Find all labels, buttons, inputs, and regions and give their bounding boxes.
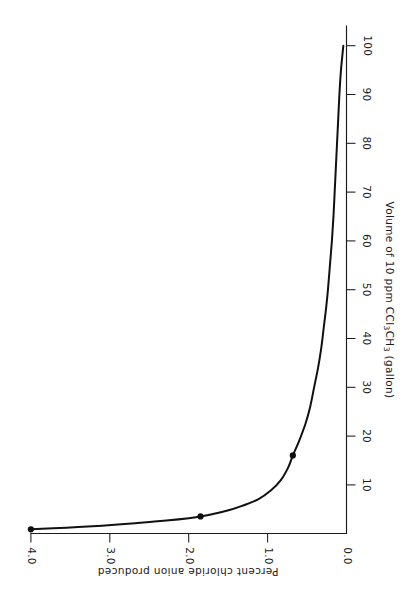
volume-tick-20: 20 <box>347 429 374 443</box>
percent-tick-label: 0.0 <box>342 547 354 564</box>
percent-tick-1: 1.0 <box>263 534 275 565</box>
percent-tick-label: 1.0 <box>263 547 275 564</box>
volume-tick-10: 10 <box>347 478 374 492</box>
volume-tick-80: 80 <box>347 136 374 150</box>
volume-tick-60: 60 <box>347 234 374 248</box>
volume-title-part-c: (gallon) <box>384 352 396 399</box>
svg-text:Volume of 10 ppm CCl3CH3 (gal: Volume of 10 ppm CCl3CH3 (gallon) <box>382 201 396 398</box>
volume-tick-label: 10 <box>361 478 373 492</box>
volume-tick-30: 30 <box>347 380 374 394</box>
percent-axis-ticks: 0.0 1.0 2.0 3.0 4.0 <box>26 534 354 565</box>
data-curve <box>31 46 343 530</box>
percent-axis-title: Percent chloride anion produced <box>98 566 279 578</box>
volume-tick-label: 50 <box>361 283 373 297</box>
volume-tick-label: 100 <box>362 35 374 56</box>
chart-figure: 10 20 30 40 50 60 <box>0 0 404 611</box>
volume-tick-40: 40 <box>347 332 374 346</box>
data-point-marker <box>28 526 34 532</box>
percent-tick-label: 4.0 <box>26 547 38 564</box>
volume-title-part-a: Volume of 10 ppm CCl <box>384 201 396 325</box>
volume-axis-ticks: 10 20 30 40 50 60 <box>347 35 375 491</box>
data-point-marker <box>197 513 203 519</box>
volume-tick-90: 90 <box>347 88 374 102</box>
volume-tick-label: 30 <box>361 380 373 394</box>
percent-tick-label: 3.0 <box>105 547 117 564</box>
volume-tick-50: 50 <box>347 283 374 297</box>
volume-tick-label: 90 <box>361 88 373 102</box>
percent-tick-label: 2.0 <box>184 547 196 564</box>
volume-tick-70: 70 <box>347 185 374 199</box>
rotated-line-chart: 10 20 30 40 50 60 <box>0 0 404 611</box>
volume-tick-label: 70 <box>361 185 373 199</box>
volume-tick-label: 20 <box>361 429 373 443</box>
percent-tick-4: 4.0 <box>26 534 38 565</box>
percent-tick-2: 2.0 <box>184 534 196 565</box>
data-point-marker <box>290 452 296 458</box>
percent-tick-0: 0.0 <box>342 547 354 564</box>
volume-tick-label: 80 <box>361 136 373 150</box>
volume-tick-label: 60 <box>361 234 373 248</box>
volume-tick-100: 100 <box>347 35 375 56</box>
percent-tick-3: 3.0 <box>105 534 117 565</box>
volume-tick-label: 40 <box>361 332 373 346</box>
volume-axis-title: Volume of 10 ppm CCl3CH3 (gallon) <box>382 201 396 398</box>
volume-title-part-b: CH <box>384 331 396 347</box>
